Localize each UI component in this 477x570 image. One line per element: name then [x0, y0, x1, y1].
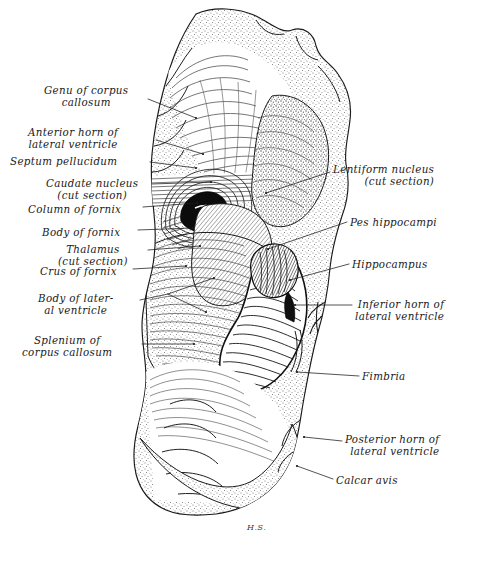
label-caudate-nucleus: Caudate nucleus (cut section) — [46, 177, 138, 201]
label-pes-hippocampi: Pes hippocampi — [350, 216, 437, 228]
label-septum-pellucidum: Septum pellucidum — [10, 155, 117, 167]
leader-calcar-avis — [297, 466, 333, 479]
label-genu-of-corpus-callosum: Genu of corpus callosum — [44, 84, 128, 108]
artist-signature: H.S. — [247, 523, 266, 532]
label-lentiform-nucleus: Lentiform nucleus (cut section) — [333, 163, 434, 187]
label-body-of-fornix: Body of fornix — [42, 226, 120, 238]
label-posterior-horn-of-lateral-ventricle: Posterior horn of lateral ventricle — [345, 433, 439, 457]
label-crus-of-fornix: Crus of fornix — [40, 265, 117, 277]
label-inferior-horn-of-lateral-ventricle: Inferior horn of lateral ventricle — [355, 298, 444, 322]
label-splenium-of-corpus-callosum: Splenium of corpus callosum — [22, 334, 112, 358]
leader-posterior-horn — [304, 437, 342, 441]
anatomical-plate: Genu of corpus callosumAnterior horn of … — [0, 0, 477, 570]
label-column-of-fornix: Column of fornix — [28, 203, 121, 215]
label-anterior-horn-of-lateral-ventricle: Anterior horn of lateral ventricle — [28, 126, 118, 150]
label-thalamus: Thalamus (cut section) — [58, 243, 128, 267]
label-hippocampus: Hippocampus — [352, 258, 428, 270]
label-body-of-lateral-ventricle: Body of later- al ventricle — [38, 292, 114, 316]
label-calcar-avis: Calcar avis — [336, 474, 398, 486]
label-fimbria: Fimbria — [362, 370, 406, 382]
